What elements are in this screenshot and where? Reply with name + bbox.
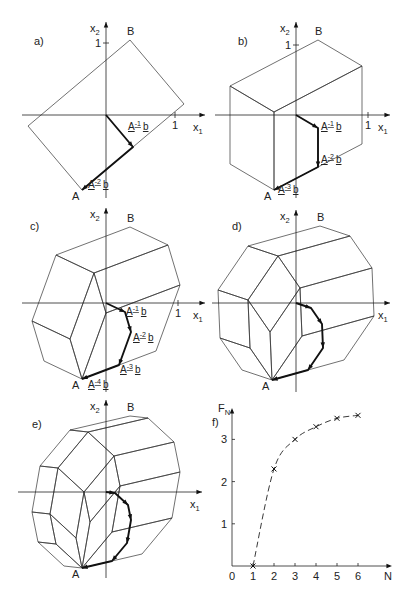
panel-label: c): [30, 220, 39, 232]
zonotope-tile: [230, 86, 274, 190]
zonotope-tile: [38, 542, 82, 568]
point-A-label: A: [262, 380, 270, 392]
panel-label: d): [232, 220, 242, 232]
x2-axis-arrow-icon: [294, 210, 298, 216]
x1-axis-label: x1: [193, 121, 203, 136]
zonotope-panels: x1x211ABa)A-1bA-2bx1x211ABb)A-1bA-2bA-3b…: [18, 22, 390, 580]
point-B-label: B: [317, 211, 324, 223]
zonotope-tile: [40, 430, 88, 468]
zonotope-tile: [76, 492, 90, 568]
path-arrow-icon: [321, 342, 325, 348]
point-B-label: B: [127, 401, 134, 413]
zonotope-tile: [270, 288, 302, 380]
matrix-power-annotation: A-1b: [321, 120, 342, 132]
panel-label: f): [212, 416, 219, 428]
x2-axis-label: x2: [280, 210, 290, 225]
n-tick-label: 6: [355, 570, 361, 582]
x1-axis-arrow-icon: [199, 301, 205, 305]
panel-a: x1x211ABa)A-1bA-2b: [22, 22, 205, 202]
zonotope-tile: [70, 416, 148, 432]
x2-axis-arrow-icon: [104, 22, 108, 28]
x1-axis-label: x1: [378, 309, 388, 324]
zonotope-tile: [112, 472, 180, 532]
zonotope-tile: [220, 338, 272, 380]
x1-axis-arrow-icon: [196, 490, 202, 494]
point-B-label: B: [127, 212, 134, 224]
zonotope-tile: [50, 468, 84, 538]
x2-axis-label: x2: [280, 22, 290, 37]
fn-axis-arrow-icon: [230, 408, 234, 414]
x2-axis-arrow-icon: [104, 400, 108, 406]
figure: x1x211ABa)A-1bA-2bx1x211ABb)A-1bA-2bA-3b…: [0, 0, 414, 599]
x2-axis-label: x2: [90, 208, 100, 223]
zonotope-tile: [278, 236, 372, 288]
n-tick-label: 0: [229, 570, 235, 582]
x2-axis-label: x2: [90, 400, 100, 415]
zonotope-tile: [32, 512, 56, 544]
zonotope-tile: [248, 300, 272, 380]
panel-label: b): [238, 35, 248, 47]
fn-axis-label: FN: [218, 402, 230, 417]
n-tick-label: 3: [292, 570, 298, 582]
n-tick-label: 1: [250, 570, 256, 582]
x1-axis-arrow-icon: [199, 113, 205, 117]
x1-tick-label: 1: [175, 307, 181, 319]
n-axis-label: N: [384, 570, 392, 582]
n-axis-arrow-icon: [386, 564, 392, 568]
point-B-label: B: [315, 25, 322, 37]
x1-axis-label: x1: [193, 309, 203, 324]
panel-e: x1x2ABe): [18, 400, 202, 580]
x1-axis-arrow-icon: [384, 113, 390, 117]
matrix-power-annotation: A-2b: [88, 178, 109, 190]
x1-axis-label: x1: [190, 498, 200, 513]
n-tick-label: 4: [313, 570, 319, 582]
fn-curve: [253, 415, 358, 566]
matrix-power-annotation: A-4b: [88, 378, 109, 390]
panel-label: a): [34, 35, 44, 47]
reachability-path: [82, 492, 131, 568]
panel-f-chart: 0123456N123FNf): [212, 402, 392, 582]
point-A-label: A: [72, 190, 80, 202]
panel-c: x1x21ABc)A-1bA-2bA-3bA-4b: [22, 208, 205, 392]
zonotope-tile: [50, 514, 82, 568]
matrix-power-annotation: A-1b: [128, 120, 149, 132]
point-B-label: B: [127, 25, 134, 37]
x1-axis-arrow-icon: [384, 301, 390, 305]
path-arrow-icon: [127, 326, 131, 332]
panel-label: e): [32, 418, 42, 430]
path-arrow-icon: [305, 304, 311, 308]
x1-axis-label: x1: [378, 121, 388, 136]
fn-tick-label: 1: [221, 518, 227, 530]
x2-axis-arrow-icon: [294, 22, 298, 28]
zonotope-tile: [32, 255, 94, 339]
path-arrow-icon: [119, 308, 125, 312]
x2-tick-label: 1: [95, 37, 101, 49]
point-A-label: A: [264, 190, 272, 202]
zonotope-tile: [88, 418, 174, 456]
n-tick-label: 5: [334, 570, 340, 582]
matrix-power-annotation: A-3b: [278, 183, 299, 195]
x1-tick-label: 1: [172, 119, 178, 131]
panel-b: x1x211ABb)A-1bA-2bA-3b: [215, 22, 390, 202]
zonotope-tile: [248, 226, 350, 256]
zonotope-tile: [32, 321, 82, 379]
x2-axis-label: x2: [90, 22, 100, 37]
point-A-label: A: [72, 568, 80, 580]
matrix-power-annotation: A-3b: [120, 363, 141, 375]
matrix-power-annotation: A-2b: [133, 331, 154, 343]
x1-tick-label: 1: [365, 119, 371, 131]
point-A-label: A: [72, 379, 80, 391]
fn-tick-label: 3: [221, 433, 227, 445]
x2-axis-arrow-icon: [104, 208, 108, 214]
x2-tick-label: 1: [285, 39, 291, 51]
zonotope-tile: [248, 256, 300, 332]
n-tick-label: 2: [271, 570, 277, 582]
fn-tick-label: 2: [221, 476, 227, 488]
matrix-power-annotation: A-2b: [321, 153, 342, 165]
zonotope-tile: [84, 456, 120, 522]
panel-d: x1x2ABd): [212, 210, 390, 392]
zonotope-tile: [300, 268, 374, 336]
zonotope-tile: [218, 246, 278, 300]
matrix-power-annotation: A-1b: [126, 305, 147, 317]
